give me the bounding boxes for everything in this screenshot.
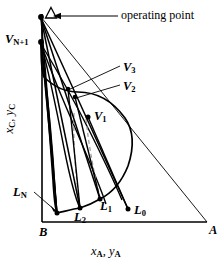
- hypotenuse-line: [41, 17, 207, 222]
- label-ln: LN: [13, 186, 27, 199]
- marker-L0: [126, 207, 131, 212]
- label-ln-subscript: N: [21, 190, 27, 200]
- label-v-n-plus-1-subscript: N+1: [13, 37, 28, 47]
- label-l0: L0: [134, 204, 146, 217]
- label-v3: V3: [123, 61, 136, 74]
- marker-delta: [38, 14, 44, 20]
- y-axis-label-y-symbol: y: [2, 110, 16, 116]
- x-axis-label-y-sub: A: [115, 249, 121, 259]
- marker-V1: [86, 115, 91, 120]
- marker-V3: [66, 87, 71, 92]
- y-axis-label: xC, yC: [3, 87, 16, 151]
- y-axis-label-x-symbol: x: [2, 128, 16, 134]
- label-v3-subscript: 3: [131, 65, 135, 75]
- label-l0-symbol: L: [134, 203, 142, 217]
- ternary-phase-diagram-figure: operating point VN+1 V3 V2 V1 LN L2 L1 L…: [0, 0, 224, 271]
- label-l1-subscript: 1: [108, 204, 112, 214]
- operating-line-to-L2: [41, 18, 80, 208]
- label-l1: L1: [100, 200, 112, 213]
- marker-V2: [73, 95, 78, 100]
- label-v1-subscript: 1: [102, 114, 106, 124]
- marker-VN1: [38, 39, 44, 45]
- x-axis-label: xA, yA: [91, 245, 121, 258]
- label-v-n-plus-1: VN+1: [5, 33, 29, 46]
- label-l2-symbol: L: [74, 210, 82, 224]
- diagram-canvas: [0, 0, 224, 271]
- operating-point-label: operating point: [121, 9, 194, 21]
- label-l0-subscript: 0: [142, 208, 146, 218]
- marker-LN: [55, 211, 60, 216]
- y-axis-label-x-sub: C: [7, 122, 17, 128]
- vertex-label-b: B: [39, 226, 47, 239]
- label-v2-subscript: 2: [131, 84, 135, 94]
- vertex-label-a: A: [209, 224, 217, 237]
- label-v1: V1: [94, 110, 107, 123]
- tie-line-V1-L0: [88, 117, 128, 209]
- y-axis-label-y-sub: C: [7, 104, 17, 110]
- label-v2: V2: [123, 80, 136, 93]
- label-l2: L2: [74, 211, 86, 224]
- leader-line-v3: [68, 66, 120, 90]
- label-l2-subscript: 2: [82, 215, 86, 225]
- label-l1-symbol: L: [100, 199, 108, 213]
- y-axis-label-separator: ,: [2, 116, 16, 122]
- label-ln-symbol: L: [13, 185, 21, 199]
